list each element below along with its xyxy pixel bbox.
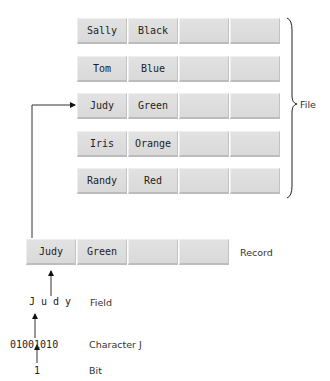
record-to-file-arrow [32,105,75,238]
name-cell: Tom [77,56,127,82]
file-record-row: Tom Blue [77,56,281,82]
field-value: J u d y [29,296,71,307]
file-record-row: Iris Orange [77,131,281,157]
bit-value: 1 [34,365,40,376]
empty-cell [230,93,280,119]
file-record-row: Sally Black [77,18,281,44]
name-cell: Judy [77,93,127,119]
field-label: Field [90,297,112,308]
empty-cell [230,56,280,82]
empty-cell [128,239,178,265]
bit-label: Bit [89,365,102,376]
empty-cell [230,131,280,157]
file-record-row: Randy Red [77,168,281,194]
name-cell: Sally [77,18,127,44]
empty-cell [230,18,280,44]
color-cell: Black [128,18,178,44]
empty-cell [179,239,229,265]
color-cell: Green [128,93,178,119]
file-label: File [300,99,316,110]
color-cell: Red [128,168,178,194]
empty-cell [179,93,229,119]
empty-cell [179,56,229,82]
character-value: 01001010 [10,339,58,350]
empty-cell [179,18,229,44]
file-record-row: Judy Green [77,93,281,119]
name-cell: Randy [77,168,127,194]
character-label: Character J [89,339,142,350]
record-row: Judy Green [26,239,230,265]
name-cell: Judy [26,239,76,265]
name-cell: Iris [77,131,127,157]
empty-cell [179,168,229,194]
record-label: Record [240,247,273,258]
color-cell: Green [77,239,127,265]
empty-cell [230,168,280,194]
color-cell: Orange [128,131,178,157]
color-cell: Blue [128,56,178,82]
file-brace [287,18,297,198]
empty-cell [179,131,229,157]
